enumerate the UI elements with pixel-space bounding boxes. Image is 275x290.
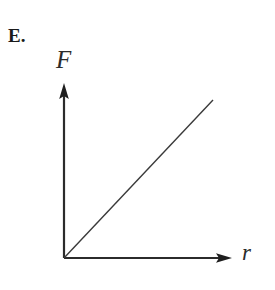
plot-area xyxy=(0,0,275,290)
graph-figure-e: E. F r xyxy=(0,0,275,290)
data-line-proportional xyxy=(64,100,213,258)
x-axis-label: r xyxy=(242,240,251,266)
y-axis-label: F xyxy=(56,46,71,74)
